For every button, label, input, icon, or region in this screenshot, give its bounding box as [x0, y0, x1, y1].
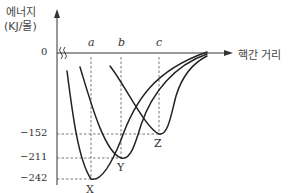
curve-x	[67, 52, 207, 179]
x-marker-b: b	[118, 36, 125, 49]
y-axis-label-line1: 에너지	[6, 6, 36, 19]
x-marker-c: c	[156, 36, 162, 49]
y-axis-arrow-icon	[54, 9, 60, 18]
y-tick-neg211: −211	[20, 151, 47, 162]
energy-chart	[0, 0, 289, 193]
point-label-z: Z	[154, 137, 162, 150]
curve-y	[80, 54, 207, 158]
y-axis-label-line2: (KJ/몰)	[4, 20, 37, 33]
point-label-y: Y	[117, 161, 124, 174]
point-label-x: X	[86, 183, 94, 193]
y-tick-neg152: −152	[20, 127, 47, 138]
x-axis-arrow-icon	[224, 50, 233, 56]
y-tick-0: 0	[41, 46, 47, 57]
x-marker-a: a	[88, 36, 95, 49]
y-tick-neg242: −242	[20, 172, 47, 183]
x-axis-label: 핵간 거리	[238, 46, 282, 62]
curve-z	[110, 56, 207, 134]
